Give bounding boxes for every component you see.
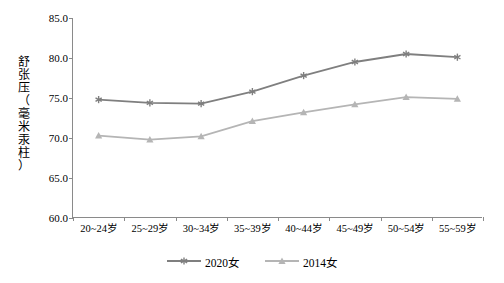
chart-container: 舒张压（毫米汞柱） 60.065.070.075.080.085.020~24岁…: [0, 0, 504, 283]
legend-marker-asterisk-icon: [167, 255, 201, 269]
plot-svg: [73, 18, 483, 218]
x-axis-tick-mark: [73, 217, 74, 221]
y-axis-tick-mark: [69, 18, 73, 19]
y-axis-tick-label: 75.0: [49, 93, 68, 104]
y-axis-title-char: 米: [16, 121, 32, 134]
x-axis-tick-mark: [483, 217, 484, 221]
x-axis-tick-mark: [227, 217, 228, 221]
y-axis-tick-mark: [69, 178, 73, 179]
x-axis-tick-label: 35~39岁: [234, 224, 271, 235]
x-axis-tick-label: 30~34岁: [183, 224, 220, 235]
x-axis-tick-label: 20~24岁: [80, 224, 117, 235]
y-axis-title-char: 毫: [16, 108, 32, 121]
legend-marker-triangle-icon: [265, 255, 299, 269]
x-axis-tick-label: 40~44岁: [285, 224, 322, 235]
y-axis-title-char: 汞: [16, 134, 32, 147]
x-axis-tick-label: 50~54岁: [388, 224, 425, 235]
legend-label: 2020女: [205, 254, 239, 270]
y-axis-tick-label: 65.0: [49, 173, 68, 184]
y-axis-title-char: 压: [16, 82, 32, 95]
y-axis-title-char: （: [16, 95, 32, 108]
x-axis-tick-label: 45~49岁: [337, 224, 374, 235]
y-axis-tick-label: 70.0: [49, 133, 68, 144]
x-axis-tick-mark: [176, 217, 177, 221]
legend-item-1[interactable]: 2020女: [167, 254, 239, 270]
x-axis-tick-mark: [278, 217, 279, 221]
y-axis-title: 舒张压（毫米汞柱）: [16, 56, 32, 173]
legend-item-2[interactable]: 2014女: [265, 254, 337, 270]
y-axis-tick-label: 80.0: [49, 53, 68, 64]
x-axis-tick-mark: [329, 217, 330, 221]
y-axis-tick-mark: [69, 138, 73, 139]
y-axis-title-char: 柱: [16, 147, 32, 160]
y-axis-tick-label: 60.0: [49, 213, 68, 224]
x-axis-tick-mark: [124, 217, 125, 221]
y-axis-title-char: ）: [16, 160, 32, 173]
plot-area: 60.065.070.075.080.085.020~24岁25~29岁30~3…: [72, 18, 482, 218]
y-axis-tick-mark: [69, 58, 73, 59]
series-line: [99, 54, 458, 104]
x-axis-tick-mark: [432, 217, 433, 221]
x-axis-tick-mark: [381, 217, 382, 221]
y-axis-tick-label: 85.0: [49, 13, 68, 24]
y-axis-title-char: 张: [16, 69, 32, 82]
y-axis-tick-mark: [69, 98, 73, 99]
chart-legend: 2020女2014女: [0, 254, 504, 270]
legend-label: 2014女: [303, 254, 337, 270]
x-axis-tick-label: 25~29岁: [132, 224, 169, 235]
x-axis-tick-label: 55~59岁: [439, 224, 476, 235]
y-axis-title-char: 舒: [16, 56, 32, 69]
